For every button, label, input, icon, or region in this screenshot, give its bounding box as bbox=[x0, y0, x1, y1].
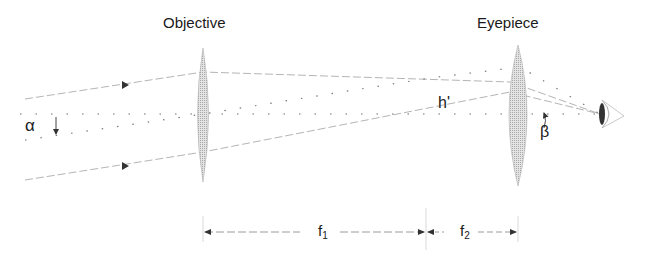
f2-arrow-right-icon bbox=[510, 229, 517, 235]
beta-label: β bbox=[540, 123, 549, 141]
objective-lens-icon bbox=[198, 48, 209, 182]
ray-arrow-bottom-icon bbox=[122, 162, 129, 170]
f2-label: f2 bbox=[460, 222, 470, 241]
eye-icon bbox=[599, 100, 624, 128]
alpha-label: α bbox=[25, 116, 35, 136]
f1-label-sub: 1 bbox=[322, 230, 328, 241]
objective-label: Objective bbox=[163, 14, 226, 31]
image-height-label: h' bbox=[438, 94, 450, 112]
ray-arrow-top-icon bbox=[122, 81, 129, 89]
f2-arrow-left-icon bbox=[427, 229, 434, 235]
f1-arrow-left-icon bbox=[204, 229, 211, 235]
eyepiece-label: Eyepiece bbox=[477, 14, 539, 31]
eyepiece-lens-icon bbox=[509, 45, 527, 186]
f2-label-sub: 2 bbox=[464, 230, 470, 241]
f1-arrow-right-icon bbox=[418, 229, 425, 235]
f1-label: f1 bbox=[318, 222, 328, 241]
